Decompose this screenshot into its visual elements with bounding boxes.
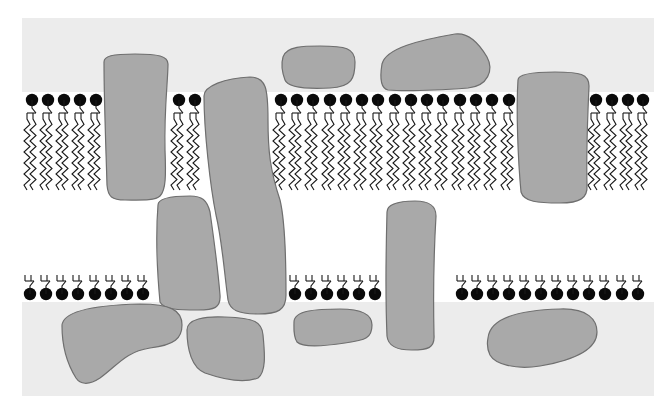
integral-protein-1 bbox=[104, 54, 168, 200]
peripheral-protein-bottom-3 bbox=[294, 309, 372, 346]
peripheral-protein-top-1 bbox=[282, 46, 355, 88]
integral-protein-5 bbox=[517, 72, 589, 203]
membrane-diagram bbox=[0, 0, 671, 412]
integral-protein-3 bbox=[157, 196, 220, 310]
integral-protein-4 bbox=[386, 201, 436, 350]
